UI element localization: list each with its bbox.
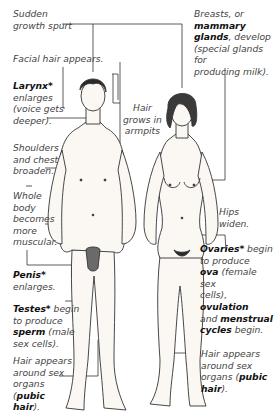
- label-penis: Penis* enlarges.: [13, 269, 56, 292]
- label-muscular: Whole body becomes more muscular.: [13, 190, 57, 248]
- label-shoulders: Shoulders and chest broaden.: [13, 142, 59, 177]
- label-armpit-hair: Hair grows in armpits: [123, 102, 162, 137]
- label-hips: Hips widen.: [219, 206, 249, 229]
- label-ovaries: Ovaries* begin to produce ova (female se…: [200, 243, 274, 336]
- label-testes: Testes* begin to produce sperm (male sex…: [13, 303, 79, 349]
- label-male-pubic-hair: Hair appears around sex organs (pubic ha…: [13, 355, 72, 413]
- label-facial-hair: Facial hair appears.: [13, 53, 103, 65]
- label-growth-spurt: Sudden growth spurt: [13, 8, 72, 31]
- label-female-pubic-hair: Hair appears around sex organs (pubic ha…: [201, 348, 267, 394]
- label-larynx: Larynx* enlarges (voice gets deeper).: [13, 80, 64, 126]
- label-breasts: Breasts, or mammary glands, develop (spe…: [194, 8, 274, 78]
